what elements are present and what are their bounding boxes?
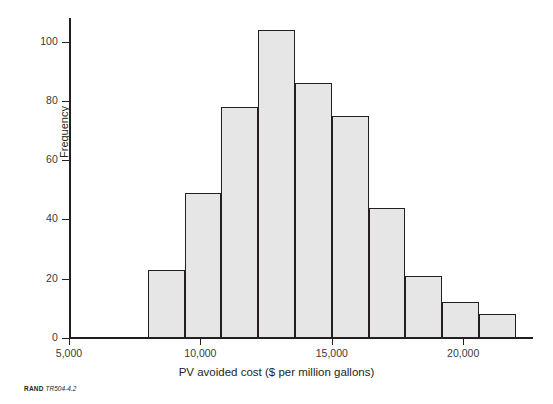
y-axis-tick-label: 40 [20, 212, 58, 224]
source-brand: RAND [24, 385, 44, 392]
x-axis-tick [200, 339, 201, 345]
x-axis-tick-label: 20,000 [447, 347, 479, 359]
y-axis-tick-label: 20 [20, 272, 58, 284]
y-axis-tick-label: 80 [20, 94, 58, 106]
histogram-bar [479, 314, 516, 338]
histogram-bar [185, 193, 222, 338]
x-axis-tick-label: 10,000 [184, 347, 216, 359]
histogram-bar [405, 276, 442, 338]
histogram-bar [442, 302, 479, 338]
x-axis-tick [69, 339, 70, 345]
y-axis-tick-label: 0 [20, 331, 58, 343]
histogram-bar [148, 270, 185, 338]
histogram-bar [332, 116, 369, 338]
y-axis-tick [62, 42, 69, 43]
x-axis-tick [463, 339, 464, 345]
y-axis-title: Frequency [58, 62, 70, 202]
source-id: TR504-4.2 [46, 385, 77, 392]
histogram-bar [369, 208, 406, 338]
histogram-bar [258, 30, 295, 338]
x-axis-tick-label: 15,000 [316, 347, 348, 359]
histogram-bar [221, 107, 258, 338]
x-axis-tick [332, 339, 333, 345]
y-axis-tick [62, 219, 69, 220]
y-axis-tick [62, 338, 69, 339]
y-axis-tick [62, 279, 69, 280]
x-axis-title: PV avoided cost ($ per million gallons) [0, 366, 553, 378]
histogram-figure: 020406080100 5,00010,00015,00020,000 Fre… [0, 0, 553, 404]
y-axis-tick-label: 60 [20, 153, 58, 165]
y-axis-tick-label: 100 [20, 35, 58, 47]
plot-area [0, 0, 553, 404]
histogram-bar [295, 83, 332, 338]
source-note: RANDTR504-4.2 [24, 385, 76, 392]
x-axis-tick-label: 5,000 [56, 347, 82, 359]
